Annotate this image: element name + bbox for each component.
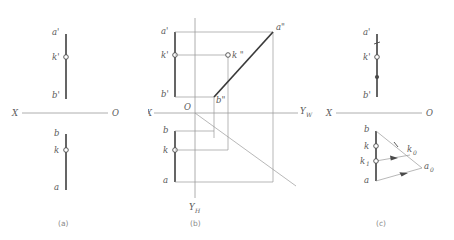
panel-b-label-a-dprime: a" — [276, 22, 285, 32]
panel-c-point-k1 — [374, 159, 379, 164]
panel-c-label-a0: a — [424, 161, 429, 171]
panel-c-line-a-a0 — [376, 168, 422, 181]
panel-b-45-degree-line — [195, 113, 296, 186]
panel-b-label-b: b — [163, 125, 168, 135]
panel-c-label-b-prime: b' — [363, 90, 371, 100]
panel-c-label-k0: k — [407, 144, 412, 154]
panel-a-caption: (a) — [58, 219, 69, 228]
panel-a: X O a' k' b' b k a (a) — [0, 0, 150, 240]
panel-c-point-k — [374, 144, 379, 149]
panel-c-x-label: X — [325, 108, 333, 118]
panel-c-label-a: a — [364, 175, 369, 185]
panel-c-label-a-prime: a' — [363, 27, 370, 37]
panel-b-yh-label-sub: H — [194, 207, 201, 214]
panel-a-x-label: X — [11, 108, 19, 118]
panel-b-label-a: a — [163, 175, 168, 185]
panel-c-o-label: O — [426, 108, 433, 118]
panel-a-o-label: O — [112, 108, 119, 118]
panel-b-label-k-dprime: k " — [232, 50, 244, 60]
panel-a-point-k-prime — [64, 55, 69, 60]
panel-c-label-k0-sub: 0 — [413, 149, 417, 156]
panel-b-origin-label: O — [184, 102, 191, 112]
panel-a-point-k — [64, 148, 69, 153]
panel-b-label-k: k — [163, 145, 168, 155]
panel-c: X O a' k' b' b k k 1 a k 0 a 0 (c) — [314, 0, 454, 240]
panel-c-label-a0-sub: 0 — [430, 166, 434, 173]
panel-b-x-label: X — [148, 108, 153, 118]
panel-a-label-b-prime: b' — [52, 90, 60, 100]
panel-c-label-b: b — [364, 124, 369, 134]
panel-c-point-k1-prime — [375, 75, 378, 78]
panel-b-segment-ab-side — [214, 32, 273, 97]
panel-b-point-k-dprime — [226, 53, 231, 58]
panel-a-label-k: k — [54, 145, 59, 155]
panel-c-label-k-prime: k' — [363, 52, 371, 62]
panel-a-label-b: b — [54, 128, 59, 138]
panel-b-label-a-prime: a' — [161, 26, 168, 36]
panel-b-caption: (b) — [190, 219, 201, 228]
panel-c-point-k-prime — [375, 55, 380, 60]
panel-b-label-k-prime: k' — [161, 50, 169, 60]
panel-c-label-k: k — [364, 141, 369, 151]
panel-a-label-a: a — [54, 182, 59, 192]
panel-b-label-b-prime: b' — [161, 89, 169, 99]
drawing-sheet: X O a' k' b' b k a (a) X O Y W Y H a' k' — [0, 0, 454, 240]
panel-c-label-k1-sub: 1 — [366, 160, 370, 167]
panel-b: X O Y W Y H a' k' b' a" k " b" b k a — [148, 0, 318, 240]
panel-c-arrow-a-a0 — [399, 172, 408, 176]
panel-c-caption: (c) — [376, 219, 386, 228]
panel-a-label-a-prime: a' — [52, 27, 59, 37]
panel-c-label-k1: k — [360, 156, 365, 166]
panel-a-label-k-prime: k' — [52, 52, 60, 62]
panel-c-arrow-k1-k0 — [390, 156, 398, 161]
panel-b-label-b-dprime: b" — [216, 95, 225, 105]
panel-b-yw-label-sub: W — [306, 111, 313, 118]
